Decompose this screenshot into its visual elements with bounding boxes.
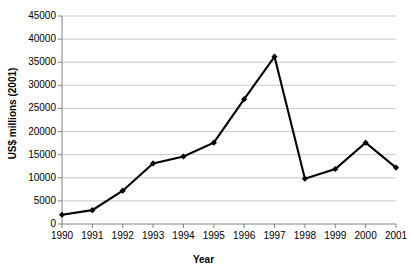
- data-series-line: [62, 57, 396, 215]
- gridlines: [62, 16, 396, 201]
- data-point-marker: [302, 176, 308, 182]
- data-point-marker: [59, 212, 65, 218]
- data-point-markers: [59, 54, 399, 218]
- x-axis-title: Year: [0, 254, 407, 265]
